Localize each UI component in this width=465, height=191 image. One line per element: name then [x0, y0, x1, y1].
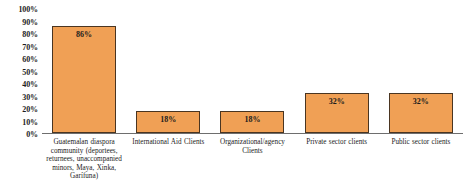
y-axis-tick-label: 30%: [0, 94, 38, 102]
y-axis-tick-label: 60%: [0, 56, 38, 64]
bar-value-label: 32%: [306, 97, 368, 106]
x-axis-category-label: Guatemalan diaspora community (deportees…: [43, 136, 126, 191]
bar-slot: 86%: [43, 8, 126, 133]
bar-chart: 100% 90% 80% 70% 60% 50% 40% 30% 20% 10%…: [0, 0, 465, 191]
x-axis-category-label: Private sector clients: [295, 136, 378, 191]
y-axis: 100% 90% 80% 70% 60% 50% 40% 30% 20% 10%…: [0, 0, 40, 140]
y-axis-tick-label: 0%: [0, 131, 38, 139]
bar-slot: 32%: [380, 8, 463, 133]
y-axis-tick-label: 50%: [0, 69, 38, 77]
bar-slot: 32%: [295, 8, 378, 133]
bar-series: 86% 18% 18% 32% 32%: [42, 8, 463, 133]
y-axis-tick-label: 90%: [0, 19, 38, 27]
x-axis-category-label: International Aid Clients: [127, 136, 210, 191]
y-axis-tick-label: 70%: [0, 44, 38, 52]
x-axis: Guatemalan diaspora community (deportees…: [42, 136, 463, 191]
bar: 86%: [52, 26, 116, 134]
bar-value-label: 32%: [390, 97, 452, 106]
x-axis-line: [42, 133, 463, 134]
bar: 32%: [389, 93, 453, 133]
bar-value-label: 18%: [137, 115, 199, 124]
y-axis-tick-label: 40%: [0, 81, 38, 89]
x-axis-category-label: Public sector clients: [380, 136, 463, 191]
x-axis-category-label: Organizational/agency Clients: [211, 136, 294, 191]
bar-value-label: 86%: [53, 30, 115, 39]
bar-value-label: 18%: [221, 115, 283, 124]
y-axis-tick-label: 20%: [0, 106, 38, 114]
y-axis-tick-label: 100%: [0, 6, 38, 14]
y-axis-tick-label: 10%: [0, 119, 38, 127]
bar-slot: 18%: [211, 8, 294, 133]
plot-area: 86% 18% 18% 32% 32%: [42, 8, 463, 133]
bar: 18%: [220, 111, 284, 134]
bar-slot: 18%: [127, 8, 210, 133]
bar: 18%: [136, 111, 200, 134]
y-axis-tick-label: 80%: [0, 31, 38, 39]
bar: 32%: [305, 93, 369, 133]
